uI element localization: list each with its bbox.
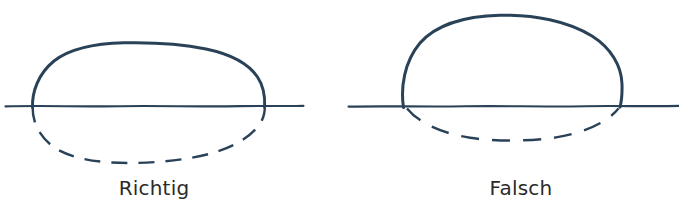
axis-line-correct [6, 106, 304, 107]
ellipse-lower-dashed-correct [33, 107, 265, 164]
ellipse-upper-solid-wrong [403, 15, 623, 107]
panel-wrong [349, 15, 679, 140]
ellipse-comparison-diagram [0, 0, 679, 204]
figure-container: Richtig Falsch [0, 0, 679, 204]
ellipse-lower-dashed-wrong [407, 109, 619, 141]
ellipse-upper-solid-correct [32, 43, 264, 108]
panel-correct [6, 43, 304, 163]
axis-line-wrong [349, 106, 679, 107]
caption-correct: Richtig [54, 177, 254, 199]
caption-wrong: Falsch [421, 177, 621, 199]
